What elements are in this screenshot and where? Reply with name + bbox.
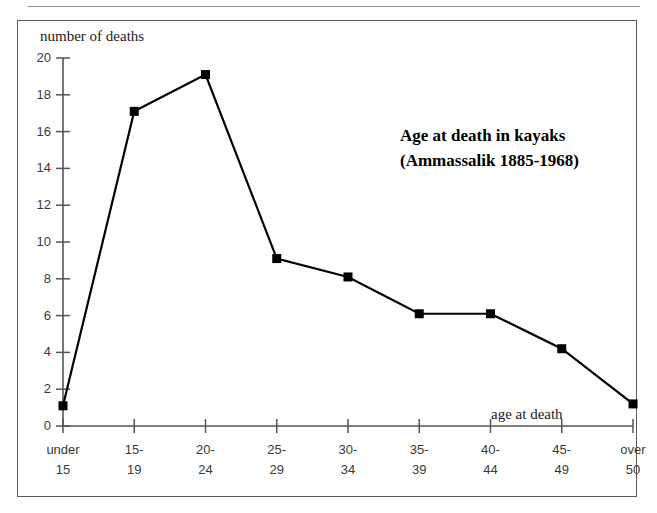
data-point-marker [415, 309, 424, 318]
x-tick-label-line: 45- [527, 440, 597, 460]
x-tick-label: 30-34 [313, 440, 383, 480]
data-point-marker [629, 399, 638, 408]
x-tick-label-line: 50 [598, 460, 657, 480]
x-tick-label-line: 49 [527, 460, 597, 480]
y-tick-label: 6 [25, 308, 51, 323]
data-point-marker [130, 107, 139, 116]
x-tick-label-line: 25- [242, 440, 312, 460]
y-tick-label: 4 [25, 344, 51, 359]
top-divider-rule [28, 6, 640, 7]
x-tick-label: 40-44 [456, 440, 526, 480]
x-tick-label: 15-19 [99, 440, 169, 480]
data-point-marker [557, 344, 566, 353]
x-tick-label-line: 24 [171, 460, 241, 480]
y-tick-label: 12 [25, 197, 51, 212]
y-tick-label: 16 [25, 124, 51, 139]
x-tick-label: 25-29 [242, 440, 312, 480]
x-tick-label: 45-49 [527, 440, 597, 480]
data-series-line [63, 75, 633, 406]
line-chart-svg [18, 21, 638, 498]
y-tick-label: 0 [25, 418, 51, 433]
x-tick-label-line: over [598, 440, 657, 460]
x-tick-label: 20-24 [171, 440, 241, 480]
data-point-marker [344, 272, 353, 281]
x-tick-label-line: 30- [313, 440, 383, 460]
x-tick-label: under15 [28, 440, 98, 480]
x-tick-label-line: 15 [28, 460, 98, 480]
data-point-marker [201, 70, 210, 79]
y-tick-label: 10 [25, 234, 51, 249]
y-tick-label: 2 [25, 381, 51, 396]
x-tick-label: 35-39 [384, 440, 454, 480]
x-tick-label-line: 29 [242, 460, 312, 480]
x-tick-label-line: 19 [99, 460, 169, 480]
x-tick-label: over50 [598, 440, 657, 480]
y-tick-label: 8 [25, 271, 51, 286]
x-tick-label-line: 35- [384, 440, 454, 460]
x-tick-label-line: 44 [456, 460, 526, 480]
chart-frame: number of deaths Age at death in kayaks … [17, 20, 637, 497]
data-point-marker [272, 254, 281, 263]
data-point-marker [486, 309, 495, 318]
y-tick-label: 18 [25, 87, 51, 102]
y-tick-label: 20 [25, 50, 51, 65]
x-tick-label-line: 34 [313, 460, 383, 480]
data-point-marker [59, 401, 68, 410]
x-tick-label-line: 20- [171, 440, 241, 460]
x-tick-label-line: 39 [384, 460, 454, 480]
y-tick-label: 14 [25, 160, 51, 175]
plot-area: 02468101214161820 under1515-1920-2425-29… [18, 21, 638, 498]
x-tick-label-line: 15- [99, 440, 169, 460]
x-tick-label-line: under [28, 440, 98, 460]
x-tick-label-line: 40- [456, 440, 526, 460]
